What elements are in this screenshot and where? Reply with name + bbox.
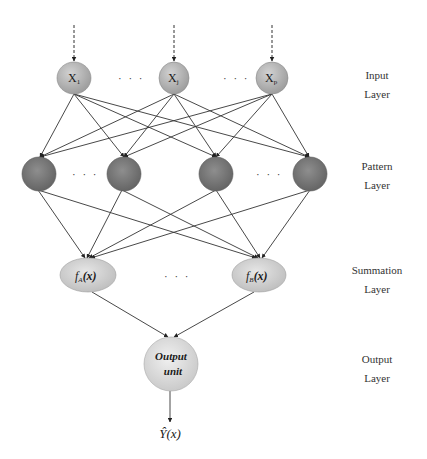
layer-label-summation-line1: Summation — [332, 261, 422, 280]
svg-text:fA(x): fA(x) — [75, 269, 97, 284]
output-node: Output unit — [144, 337, 198, 391]
input-arrows — [74, 25, 272, 61]
layer-label-summation: Summation Layer — [332, 261, 422, 299]
summation-ellipsis: · · · — [164, 270, 191, 282]
layer-label-pattern-line2: Layer — [332, 176, 422, 195]
svg-text:unit: unit — [164, 365, 183, 377]
input-ellipsis-1: · · · — [118, 72, 145, 84]
layer-label-input-line1: Input — [332, 66, 422, 85]
pattern-node-3 — [199, 157, 233, 191]
layer-label-pattern: Pattern Layer — [332, 157, 422, 195]
input-node-xj: Xj — [159, 62, 189, 94]
summation-node-fB: fB(x) — [232, 258, 286, 292]
input-ellipsis-2: · · · — [223, 72, 250, 84]
svg-text:fB(x): fB(x) — [246, 269, 268, 284]
layer-label-summation-line2: Layer — [332, 280, 422, 299]
layer-label-output-line2: Layer — [332, 369, 422, 388]
layer-label-pattern-line1: Pattern — [332, 157, 422, 176]
input-pattern-edges — [40, 94, 309, 157]
summation-node-fA: fA(x) — [60, 258, 116, 292]
pattern-node-1 — [22, 157, 56, 191]
pattern-summation-edges — [38, 190, 310, 258]
summation-output-edges — [92, 292, 254, 337]
pattern-ellipsis-1: · · · — [72, 168, 99, 180]
input-node-x1: X1 — [57, 62, 91, 94]
input-node-xp: Xp — [256, 62, 288, 94]
layer-label-output: Output Layer — [332, 350, 422, 388]
svg-text:Output: Output — [155, 350, 188, 362]
pattern-ellipsis-2: · · · — [256, 168, 283, 180]
output-label: Ŷ(x) — [159, 426, 181, 441]
pattern-node-2 — [107, 157, 141, 191]
layer-label-input-line2: Layer — [332, 85, 422, 104]
layer-label-input: Input Layer — [332, 66, 422, 104]
layer-label-output-line1: Output — [332, 350, 422, 369]
pattern-node-4 — [293, 157, 327, 191]
